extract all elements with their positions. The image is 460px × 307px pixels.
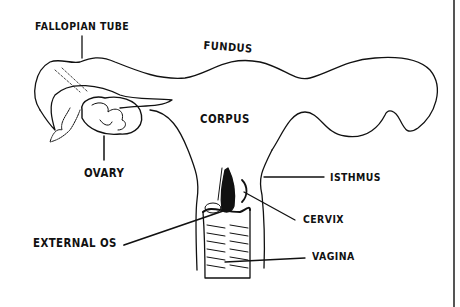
label-ovary: OVARY bbox=[84, 166, 124, 180]
uterus-right-wall bbox=[260, 150, 272, 268]
label-isthmus: ISTHMUS bbox=[330, 171, 381, 184]
leader-external-os bbox=[124, 210, 226, 245]
fallopian-tube-inner bbox=[40, 86, 172, 130]
cervical-canal bbox=[221, 168, 234, 212]
fimbriae bbox=[50, 108, 80, 142]
uterus-left-wall bbox=[150, 110, 198, 270]
label-external-os: EXTERNAL OS bbox=[33, 236, 117, 250]
label-vagina: VAGINA bbox=[312, 250, 355, 263]
uterus-diagram: FALLOPIAN TUBE FUNDUS CORPUS OVARY ISTHM… bbox=[0, 0, 460, 307]
label-fallopian-tube: FALLOPIAN TUBE bbox=[35, 20, 129, 33]
label-cervix: CERVIX bbox=[303, 213, 344, 226]
ovary-shape bbox=[82, 97, 142, 134]
vagina-shape bbox=[203, 203, 250, 278]
leader-cervix bbox=[244, 192, 295, 220]
label-corpus: CORPUS bbox=[200, 112, 250, 126]
